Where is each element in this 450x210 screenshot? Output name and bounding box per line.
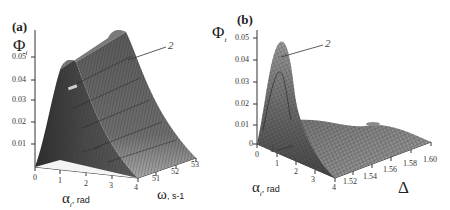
- z-tick: 0.03: [235, 78, 249, 86]
- z-tick: 0.02: [235, 100, 249, 108]
- curve-label-2-b: 2: [325, 38, 331, 49]
- x-tick: 1: [58, 177, 62, 185]
- y-tick: 1.52: [343, 178, 357, 186]
- z-tick: 0.05: [235, 34, 249, 42]
- y-tick: 1.60: [423, 156, 437, 164]
- x-tick: 0: [255, 151, 259, 159]
- x-axis-unit: , rad: [262, 184, 280, 194]
- x-axis-unit: , rad: [72, 195, 90, 205]
- z-tick: 0.01: [12, 140, 26, 148]
- panel-label-b: (b): [237, 13, 253, 26]
- x-tick: 2: [294, 168, 298, 176]
- y-tick: 51: [152, 175, 160, 183]
- y-axis-unit: , s-1: [167, 191, 185, 201]
- y-axis-title-b: Δ: [398, 179, 409, 196]
- z-tick: 0.05: [12, 53, 26, 61]
- x-axis-title-a: αi, rad: [62, 191, 90, 209]
- z-tick: 0.02: [12, 118, 26, 126]
- y-tick: 53: [191, 161, 199, 169]
- z-tick: 0: [249, 140, 253, 148]
- z-tick: 0.01: [235, 121, 249, 129]
- z-tick: 0.04: [235, 56, 249, 64]
- panel-a: (a) Φi 0.05 0.04 0.03 0.02 0.01 0 1 2 3 …: [0, 0, 225, 210]
- z-tick: 0.04: [12, 76, 26, 84]
- x-axis-title-b: αi, rad: [252, 180, 280, 198]
- y-tick: 52: [171, 168, 179, 176]
- y-axis-symbol: ω: [157, 186, 167, 202]
- panel-label-a: (a): [12, 20, 27, 33]
- x-tick: 2: [84, 180, 88, 188]
- x-axis-symbol: α: [252, 179, 260, 195]
- z-axis-symbol: Φ: [212, 23, 224, 42]
- z-tick: 0.03: [12, 96, 26, 104]
- x-axis-symbol: α: [62, 190, 70, 206]
- x-tick: 3: [109, 182, 113, 190]
- z-axis-subscript: i: [224, 36, 226, 44]
- y-axis-title-a: ω, s-1: [157, 187, 184, 202]
- y-tick: 1.54: [363, 173, 377, 181]
- z-axis-title-b: Φi: [212, 24, 226, 44]
- x-tick: 0: [33, 174, 37, 182]
- curve-label-1-a: 1: [72, 150, 78, 161]
- x-tick: 3: [311, 176, 315, 184]
- curve-label-1-b: 1: [270, 143, 276, 154]
- x-tick: 4: [134, 184, 138, 192]
- x-tick: 1: [275, 160, 279, 168]
- y-tick: 1.56: [383, 166, 397, 174]
- x-tick: 4: [332, 184, 336, 192]
- curve-label-2-a: 2: [168, 40, 174, 51]
- y-tick: 1.58: [403, 160, 417, 168]
- panel-b: (b) Φi 0.05 0.04 0.03 0.02 0.01 0 0 1 2 …: [225, 0, 450, 210]
